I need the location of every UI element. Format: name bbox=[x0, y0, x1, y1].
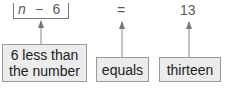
label-box-thirteen: thirteen bbox=[159, 57, 221, 82]
label-line-2: the number bbox=[9, 63, 80, 79]
label-box-equals: equals bbox=[96, 57, 149, 82]
verbal-to-algebra-diagram: n − 6 = 13 6 less thanthe number equals … bbox=[0, 0, 229, 89]
label-box-6-less-than-the-number: 6 less thanthe number bbox=[2, 44, 87, 82]
label-line-1: 6 less than bbox=[11, 47, 79, 63]
